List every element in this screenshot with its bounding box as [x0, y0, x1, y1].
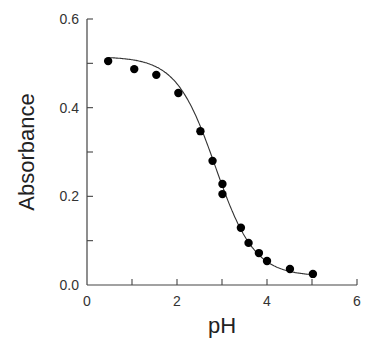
fit-curve	[108, 58, 313, 275]
data-point	[255, 249, 263, 257]
data-point	[309, 270, 317, 278]
data-point	[208, 157, 216, 165]
data-point	[244, 239, 252, 247]
data-point	[286, 265, 294, 273]
data-points	[104, 57, 317, 278]
data-point	[152, 71, 160, 79]
data-point	[104, 57, 112, 65]
x-axis-title: pH	[208, 313, 236, 338]
absorbance-vs-ph-chart: 02460.00.20.40.6 pH Absorbance	[0, 0, 374, 356]
data-point	[196, 127, 204, 135]
x-tick-label: 0	[83, 293, 91, 309]
x-tick-label: 6	[353, 293, 361, 309]
x-tick-label: 2	[173, 293, 181, 309]
y-axis-title: Absorbance	[14, 93, 39, 210]
data-point	[237, 224, 245, 232]
data-point	[218, 180, 226, 188]
y-tick-label: 0.2	[60, 188, 80, 204]
x-tick-label: 4	[263, 293, 271, 309]
data-point	[130, 65, 138, 73]
y-tick-label: 0.4	[60, 100, 80, 116]
y-tick-label: 0.6	[60, 11, 80, 27]
data-point	[218, 190, 226, 198]
data-point	[174, 89, 182, 97]
data-point	[263, 257, 271, 265]
y-tick-label: 0.0	[60, 277, 80, 293]
